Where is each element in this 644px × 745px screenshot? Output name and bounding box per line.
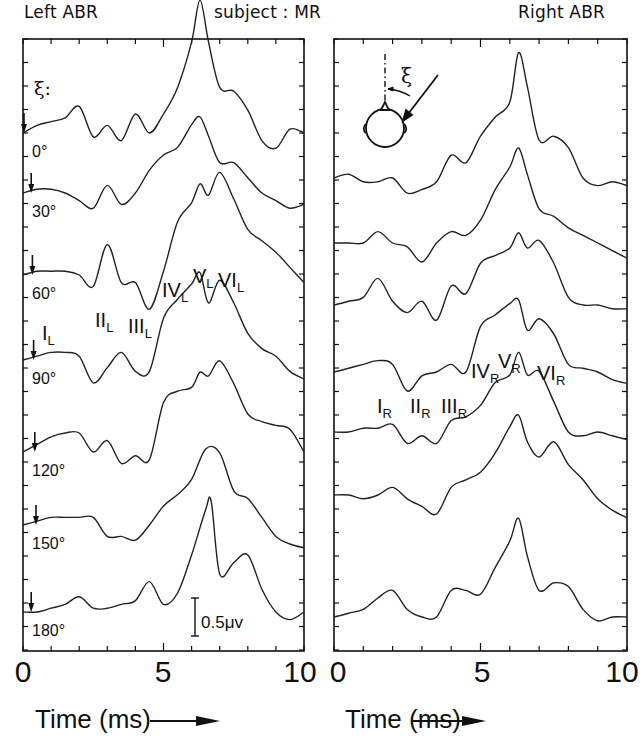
angle-label: 150°: [32, 535, 65, 552]
angle-label: 0°: [32, 143, 47, 160]
abr-trace-0deg: [23, 0, 304, 149]
right-xtick-10: 10: [605, 655, 638, 689]
peak-label: IL: [42, 322, 55, 348]
right-x-axis-label: Time (ms): [345, 704, 461, 735]
angle-label: 90°: [32, 370, 56, 387]
peak-label: IIIR: [441, 395, 467, 421]
peak-label: VIL: [218, 269, 244, 295]
left-x-axis-label: Time (ms): [35, 704, 151, 735]
angle-labels: 0°30°60°90°120°150°180°: [32, 143, 65, 639]
onset-arrow-icon: [28, 603, 34, 612]
onset-arrow-icon: [31, 351, 37, 360]
left-xtick-5: 5: [155, 655, 172, 689]
right-xtick-5: 5: [474, 655, 491, 689]
peak-label: IR: [377, 395, 392, 421]
abr-trace-30deg: [334, 148, 627, 262]
abr-trace-30deg: [23, 117, 304, 209]
left-xtick-0: 0: [15, 655, 32, 689]
onset-arrow-icon: [29, 266, 35, 275]
abr-trace-120deg: [23, 361, 304, 464]
peak-label: IIR: [410, 395, 431, 421]
abr-figure: ξ ξ: 0°30°60°90°120°150°180° ILIILIIILIV…: [0, 0, 644, 745]
peak-label: IIIL: [128, 315, 152, 341]
peak-label: IVR: [471, 360, 499, 386]
scale-bar-label: 0.5μv: [201, 613, 243, 632]
abr-trace-180deg: [334, 518, 627, 621]
peak-label: VIR: [537, 362, 565, 388]
left-abr-panel: [21, 0, 304, 651]
abr-trace-180deg: [23, 497, 304, 620]
angle-label: 60°: [32, 285, 56, 302]
abr-trace-60deg: [334, 233, 627, 321]
left-xtick-10: 10: [283, 655, 316, 689]
angle-label: 120°: [32, 462, 65, 479]
time-arrow-left-icon: [150, 716, 220, 726]
scale-bar: [191, 598, 199, 636]
right-xtick-0: 0: [330, 655, 347, 689]
left-panel-frame: [23, 39, 304, 651]
left-panel-ticks: [23, 39, 304, 651]
peak-label: IIL: [95, 309, 113, 335]
angle-label: 30°: [32, 203, 56, 220]
abr-trace-150deg: [23, 446, 304, 547]
abr-trace-150deg: [334, 415, 627, 518]
angle-label: 180°: [32, 622, 65, 639]
xi-symbol: ξ: [401, 64, 412, 88]
left-traces: [23, 0, 304, 620]
xi-label: ξ:: [34, 77, 51, 99]
